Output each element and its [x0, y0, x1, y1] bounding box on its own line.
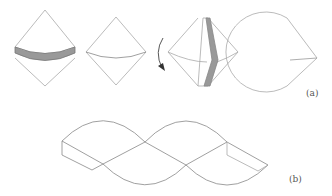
circular-sector — [226, 12, 317, 92]
cone-with-wedge — [168, 18, 238, 86]
panel-a-label: (a) — [306, 88, 318, 98]
rotation-arrow-icon — [158, 38, 165, 71]
diagram-canvas — [0, 0, 332, 196]
double-cone — [86, 17, 146, 85]
unrolled-chain — [62, 121, 268, 185]
cone-with-band — [15, 10, 75, 86]
panel-b-label: (b) — [289, 174, 302, 184]
